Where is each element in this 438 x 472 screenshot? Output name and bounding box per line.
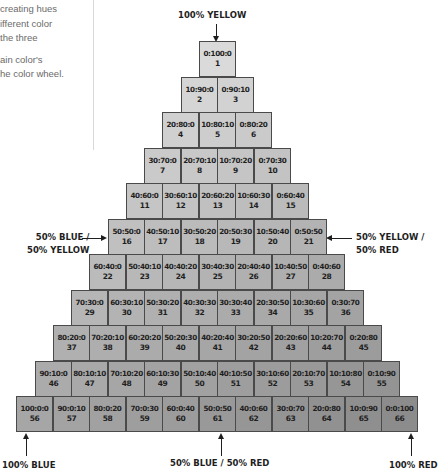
cell-number: 7 bbox=[160, 166, 165, 176]
label-50-yellow-50-red: 50% YELLOW / 50% RED bbox=[356, 231, 424, 257]
cell-number: 2 bbox=[197, 95, 202, 105]
color-mix-cell: 50:40:1023 bbox=[126, 254, 163, 290]
cell-ratio: 0:10:90 bbox=[368, 369, 396, 379]
color-mix-cell: 10:90:02 bbox=[181, 77, 218, 113]
cell-ratio: 20:40:40 bbox=[237, 262, 270, 272]
cell-number: 32 bbox=[195, 308, 205, 318]
color-mix-cell: 80:20:037 bbox=[53, 325, 90, 361]
cell-ratio: 20:20:60 bbox=[274, 333, 307, 343]
cell-ratio: 10:0:90 bbox=[350, 404, 378, 414]
cell-number: 57 bbox=[67, 414, 77, 424]
cell-ratio: 0:40:60 bbox=[313, 262, 341, 272]
color-mix-cell: 10:30:6035 bbox=[290, 290, 327, 326]
color-mix-cell: 0:50:5021 bbox=[290, 219, 327, 255]
arrow-line bbox=[411, 438, 412, 456]
cell-number: 60 bbox=[176, 414, 186, 424]
color-mix-cell: 90:0:1057 bbox=[53, 396, 90, 432]
cell-number: 53 bbox=[304, 379, 314, 389]
cell-ratio: 0:80:20 bbox=[240, 120, 268, 130]
cell-ratio: 10:90:0 bbox=[186, 85, 214, 95]
cell-number: 54 bbox=[341, 379, 351, 389]
cell-number: 21 bbox=[304, 237, 314, 247]
cell-ratio: 30:0:70 bbox=[277, 404, 305, 414]
cell-number: 15 bbox=[286, 201, 296, 211]
cell-ratio: 50:20:30 bbox=[164, 333, 197, 343]
cell-number: 19 bbox=[231, 237, 241, 247]
cell-number: 30 bbox=[122, 308, 132, 318]
cell-ratio: 20:80:0 bbox=[167, 120, 195, 130]
cell-number: 42 bbox=[249, 343, 259, 353]
cell-number: 31 bbox=[158, 308, 168, 318]
color-mix-cell: 80:10:1047 bbox=[71, 361, 108, 397]
color-mix-cell: 40:10:5051 bbox=[217, 361, 254, 397]
cell-number: 66 bbox=[395, 414, 405, 424]
cell-number: 24 bbox=[176, 272, 186, 282]
color-mix-cell: 0:80:206 bbox=[235, 112, 272, 148]
color-mix-cell: 20:10:7053 bbox=[290, 361, 327, 397]
cell-ratio: 40:20:40 bbox=[201, 333, 234, 343]
color-mix-cell: 50:0:5061 bbox=[199, 396, 236, 432]
cell-number: 45 bbox=[359, 343, 369, 353]
color-mix-cell: 70:30:029 bbox=[71, 290, 108, 326]
cell-ratio: 90:0:10 bbox=[58, 404, 86, 414]
cell-ratio: 30:50:20 bbox=[183, 227, 216, 237]
cell-ratio: 60:30:10 bbox=[110, 298, 143, 308]
cell-ratio: 40:60:0 bbox=[131, 191, 159, 201]
cell-number: 23 bbox=[140, 272, 150, 282]
cell-ratio: 50:30:20 bbox=[146, 298, 179, 308]
cell-ratio: 20:50:30 bbox=[219, 227, 252, 237]
cell-ratio: 0:50:50 bbox=[295, 227, 323, 237]
cell-number: 3 bbox=[233, 95, 238, 105]
color-mix-cell: 30:10:6052 bbox=[254, 361, 291, 397]
cell-ratio: 40:0:60 bbox=[240, 404, 268, 414]
cell-number: 22 bbox=[103, 272, 113, 282]
cell-ratio: 80:10:10 bbox=[73, 369, 106, 379]
cell-ratio: 20:10:70 bbox=[292, 369, 325, 379]
color-mix-cell: 20:30:5034 bbox=[254, 290, 291, 326]
cell-number: 56 bbox=[30, 414, 40, 424]
cell-number: 27 bbox=[286, 272, 296, 282]
cell-number: 49 bbox=[158, 379, 168, 389]
cell-number: 17 bbox=[158, 237, 168, 247]
color-mix-cell: 70:0:3059 bbox=[126, 396, 163, 432]
color-mix-cell: 0:40:6028 bbox=[308, 254, 345, 290]
color-mix-cell: 40:60:011 bbox=[126, 183, 163, 219]
cell-number: 8 bbox=[197, 166, 202, 176]
cell-ratio: 30:40:30 bbox=[201, 262, 234, 272]
cell-ratio: 0:60:40 bbox=[277, 191, 305, 201]
cell-ratio: 70:0:30 bbox=[131, 404, 159, 414]
cell-ratio: 0:30:70 bbox=[332, 298, 360, 308]
cell-ratio: 0:20:80 bbox=[350, 333, 378, 343]
color-mix-cell: 60:40:022 bbox=[89, 254, 126, 290]
arrow-right-icon bbox=[101, 235, 107, 241]
arrow-line bbox=[26, 438, 27, 456]
cell-number: 5 bbox=[215, 130, 220, 140]
cell-number: 29 bbox=[85, 308, 95, 318]
color-mix-cell: 70:20:1038 bbox=[89, 325, 126, 361]
color-mix-cell: 20:40:4026 bbox=[235, 254, 272, 290]
arrow-line bbox=[221, 438, 222, 456]
color-mix-cell: 30:50:2018 bbox=[181, 219, 218, 255]
color-mix-cell: 90:10:046 bbox=[35, 361, 72, 397]
cell-number: 48 bbox=[122, 379, 132, 389]
cell-number: 40 bbox=[176, 343, 186, 353]
cell-number: 47 bbox=[85, 379, 95, 389]
label-50-blue-50-red: 50% BLUE / 50% RED bbox=[170, 457, 269, 470]
cell-ratio: 30:10:60 bbox=[256, 369, 289, 379]
color-mix-cell: 0:60:4015 bbox=[272, 183, 309, 219]
cell-number: 13 bbox=[213, 201, 223, 211]
cell-ratio: 60:10:30 bbox=[146, 369, 179, 379]
color-mix-cell: 10:60:3014 bbox=[235, 183, 272, 219]
cell-ratio: 10:20:70 bbox=[310, 333, 343, 343]
cell-ratio: 100:0:0 bbox=[21, 404, 49, 414]
label-100-red: 100% RED bbox=[389, 459, 438, 472]
cell-ratio: 10:10:80 bbox=[329, 369, 362, 379]
cell-number: 41 bbox=[213, 343, 223, 353]
cell-number: 35 bbox=[304, 308, 314, 318]
color-mix-cell: 10:50:4020 bbox=[254, 219, 291, 255]
cell-ratio: 50:50:0 bbox=[113, 227, 141, 237]
cell-number: 9 bbox=[233, 166, 238, 176]
label-50-blue-50-yellow: 50% BLUE / 50% YELLOW bbox=[27, 231, 89, 257]
color-mix-cell: 10:10:8054 bbox=[327, 361, 364, 397]
cell-number: 11 bbox=[140, 201, 150, 211]
